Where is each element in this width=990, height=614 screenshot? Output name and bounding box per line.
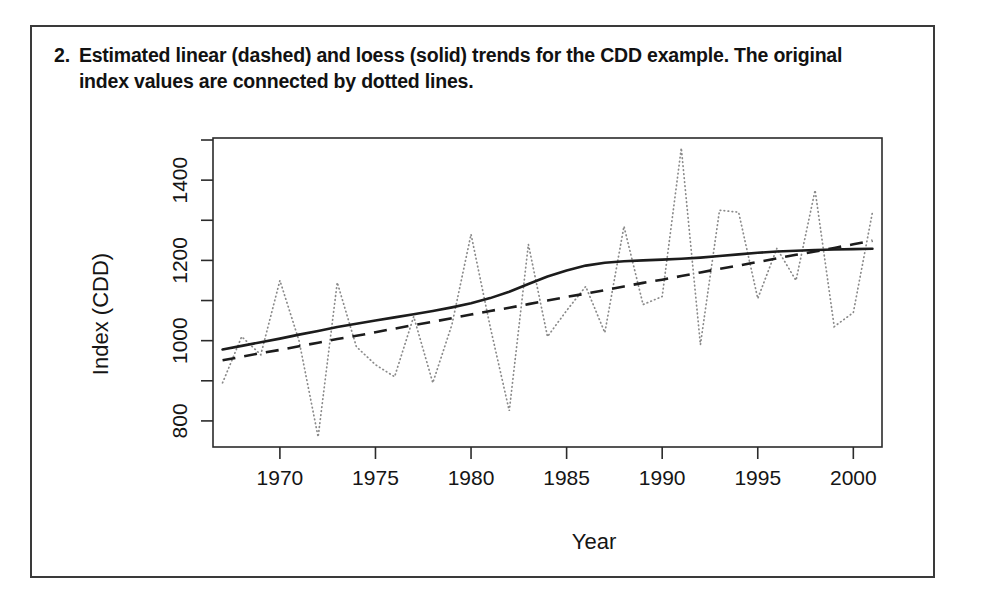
y-tick-label-1000: 1000 (168, 317, 191, 364)
y-axis-tick-labels: 800100012001400 (168, 157, 191, 439)
x-tick-label-1970: 1970 (257, 466, 304, 489)
y-tick-label-1200: 1200 (168, 237, 191, 284)
plot-frame (213, 138, 882, 447)
x-axis-title: Year (572, 529, 616, 554)
chart-plot-area: 1970197519801985199019952000 80010001200… (32, 27, 937, 580)
x-tick-label-2000: 2000 (830, 466, 877, 489)
y-tick-label-800: 800 (168, 403, 191, 438)
data-series-group (223, 148, 873, 437)
x-axis-tick-labels: 1970197519801985199019952000 (257, 466, 877, 489)
x-tick-label-1980: 1980 (448, 466, 495, 489)
cdd-trend-chart: 1970197519801985199019952000 80010001200… (32, 27, 937, 580)
y-axis-title: Index (CDD) (88, 253, 113, 375)
y-axis-ticks (201, 140, 213, 421)
y-tick-label-1400: 1400 (168, 157, 191, 204)
x-tick-label-1985: 1985 (543, 466, 590, 489)
series-path-2 (223, 241, 873, 361)
figure-card: 2. Estimated linear (dashed) and loess (… (30, 25, 935, 578)
x-tick-label-1990: 1990 (639, 466, 686, 489)
series-path-0 (223, 148, 873, 437)
x-tick-label-1995: 1995 (734, 466, 781, 489)
x-tick-label-1975: 1975 (352, 466, 399, 489)
x-axis-ticks (280, 447, 853, 459)
